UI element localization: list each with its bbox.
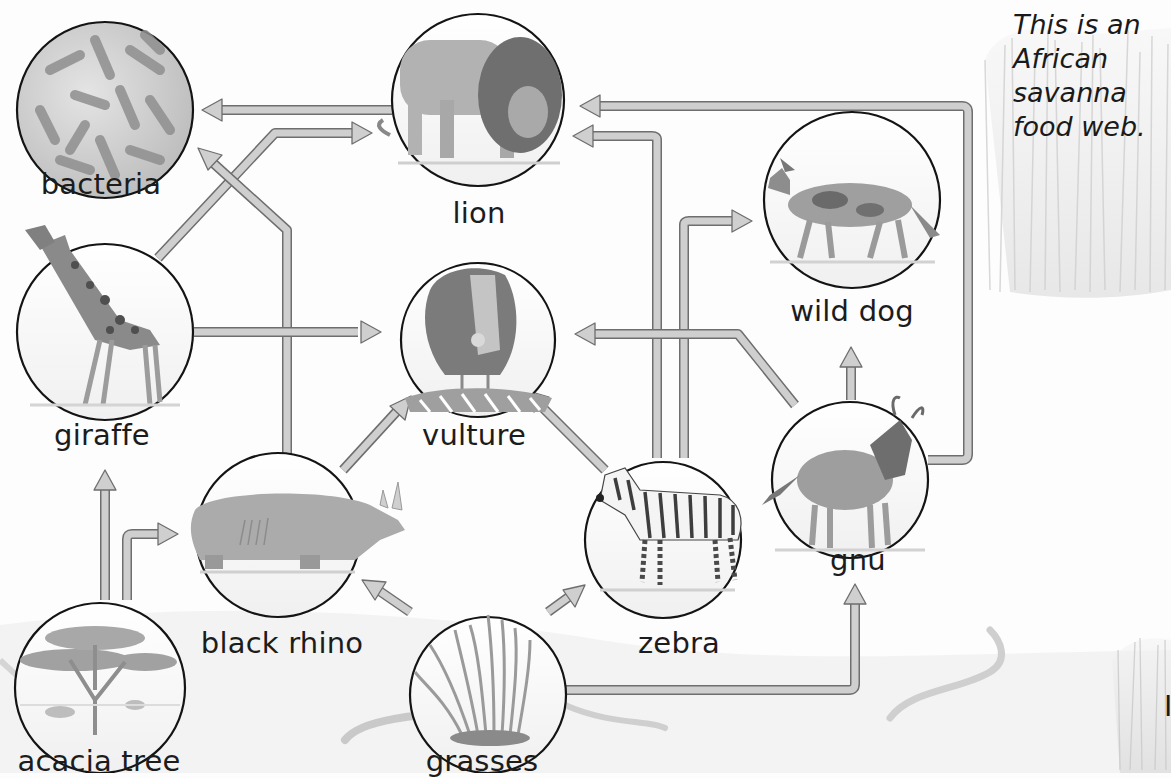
label-zebra: zebra: [638, 626, 720, 660]
label-wild-dog: wild dog: [790, 294, 914, 328]
node-vulture[interactable]: [401, 263, 555, 417]
partial-cut-off-text: I: [1164, 690, 1171, 723]
label-gnu: gnu: [830, 543, 886, 577]
caption-line-3: savanna: [1013, 76, 1146, 110]
caption-line-4: food web.: [1013, 110, 1146, 144]
arrow-acacia-to-rhino: [127, 523, 178, 600]
label-giraffe: giraffe: [54, 418, 150, 452]
arrow-gnu-to-wilddog: [840, 347, 862, 400]
node-zebra[interactable]: [585, 462, 741, 618]
arrow-lion-to-bacteria: [202, 99, 392, 121]
label-acacia-tree: acacia tree: [17, 744, 180, 778]
label-grasses: grasses: [426, 744, 539, 778]
label-lion: lion: [452, 196, 505, 230]
caption: This is an African savanna food web.: [1013, 8, 1146, 144]
node-gnu[interactable]: [762, 397, 928, 558]
node-lion[interactable]: [379, 14, 564, 186]
arrow-rhino-to-vulture: [343, 396, 411, 470]
caption-line-1: This is an: [1013, 8, 1146, 42]
arrow-acacia-to-giraffe: [94, 470, 116, 600]
arrow-grasses-to-zebra: [548, 585, 585, 612]
arrow-zebra-to-lion: [573, 125, 657, 458]
label-vulture: vulture: [422, 418, 526, 452]
node-wild-dog[interactable]: [764, 112, 940, 288]
arrow-giraffe-to-lion: [158, 122, 372, 258]
arrow-grasses-to-rhino: [362, 580, 410, 612]
label-black-rhino: black rhino: [201, 626, 363, 660]
caption-line-2: African: [1013, 42, 1146, 76]
label-bacteria: bacteria: [41, 167, 162, 201]
